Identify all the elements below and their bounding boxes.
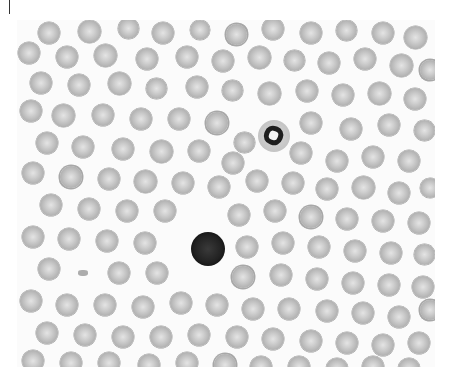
red-blood-cell xyxy=(354,48,376,70)
red-blood-cell xyxy=(22,350,44,367)
red-blood-cell xyxy=(420,60,435,80)
red-blood-cell xyxy=(270,264,292,286)
red-blood-cell xyxy=(326,150,348,172)
red-blood-cell xyxy=(132,296,154,318)
red-blood-cell xyxy=(108,262,130,284)
red-blood-cell xyxy=(222,152,244,174)
red-blood-cell xyxy=(372,334,394,356)
red-blood-cell xyxy=(316,300,338,322)
red-blood-cell xyxy=(168,108,190,130)
red-blood-cell xyxy=(150,140,173,163)
lymphocyte-cell xyxy=(191,232,225,266)
blood-smear-image xyxy=(17,20,435,367)
red-blood-cell xyxy=(262,328,284,350)
red-blood-cell xyxy=(130,108,152,130)
red-blood-cell xyxy=(362,356,384,367)
neutrophil-cell xyxy=(258,120,290,152)
red-blood-cell xyxy=(134,232,156,254)
red-blood-cell xyxy=(112,138,134,160)
red-blood-cell xyxy=(78,20,101,43)
red-blood-cell xyxy=(20,100,42,122)
red-blood-cell xyxy=(188,140,210,162)
red-blood-cell xyxy=(22,162,44,184)
red-blood-cell xyxy=(56,46,78,68)
red-blood-cell xyxy=(408,332,430,354)
red-blood-cell xyxy=(414,244,435,265)
red-blood-cell xyxy=(108,72,131,95)
red-blood-cell xyxy=(36,322,58,344)
red-blood-cell xyxy=(316,178,338,200)
red-blood-cell xyxy=(264,200,286,222)
red-blood-cell xyxy=(234,132,255,153)
red-blood-cell xyxy=(38,22,60,44)
red-blood-cell xyxy=(222,80,243,101)
red-blood-cell xyxy=(226,326,248,348)
red-blood-cell xyxy=(56,294,78,316)
red-blood-cell xyxy=(214,354,236,367)
red-blood-cell xyxy=(36,132,58,154)
red-blood-cell xyxy=(282,172,304,194)
red-blood-cell xyxy=(152,22,174,44)
red-blood-cell xyxy=(38,258,60,280)
red-blood-cell xyxy=(94,44,117,67)
red-blood-cell xyxy=(18,42,40,64)
corner-tick-mark xyxy=(9,0,10,14)
red-blood-cell xyxy=(138,354,160,367)
red-blood-cell xyxy=(372,210,394,232)
red-blood-cell xyxy=(208,176,230,198)
red-blood-cell xyxy=(300,206,322,228)
red-blood-cell xyxy=(112,326,134,348)
red-blood-cell xyxy=(336,332,358,354)
red-blood-cell xyxy=(92,104,114,126)
red-blood-cell xyxy=(420,300,435,320)
red-blood-cell xyxy=(186,76,208,98)
red-blood-cell xyxy=(272,232,294,254)
red-blood-cell xyxy=(68,74,90,96)
red-blood-cell xyxy=(78,198,100,220)
red-blood-cell xyxy=(340,118,362,140)
red-blood-cell xyxy=(288,356,310,367)
red-blood-cell xyxy=(278,298,300,320)
red-blood-cell xyxy=(60,352,82,367)
red-blood-cell xyxy=(176,352,198,367)
red-blood-cell xyxy=(146,78,167,99)
red-blood-cell xyxy=(378,114,400,136)
red-blood-cell xyxy=(172,172,194,194)
red-blood-cell xyxy=(420,178,435,198)
red-blood-cell xyxy=(154,200,176,222)
red-blood-cell xyxy=(118,20,139,39)
red-blood-cell xyxy=(248,46,271,69)
red-blood-cell xyxy=(116,200,138,222)
red-blood-cell xyxy=(300,330,322,352)
red-blood-cell xyxy=(368,82,391,105)
red-blood-cell xyxy=(52,104,75,127)
red-blood-cell xyxy=(246,170,268,192)
red-blood-cell xyxy=(398,358,420,367)
red-blood-cell xyxy=(404,88,426,110)
red-blood-cell xyxy=(380,242,402,264)
red-blood-cell xyxy=(318,52,340,74)
red-blood-cell xyxy=(170,292,192,314)
red-blood-cell xyxy=(242,298,264,320)
red-blood-cell xyxy=(300,22,322,44)
red-blood-cell xyxy=(332,84,354,106)
segmented-nucleus xyxy=(262,124,287,149)
red-blood-cell xyxy=(336,208,358,230)
red-blood-cell xyxy=(388,306,410,328)
red-blood-cell xyxy=(94,294,116,316)
red-blood-cell xyxy=(232,266,254,288)
red-blood-cell xyxy=(40,194,62,216)
red-blood-cell xyxy=(388,182,410,204)
red-blood-cell xyxy=(22,226,44,248)
red-blood-cell xyxy=(326,358,348,367)
red-blood-cell xyxy=(284,50,305,71)
red-blood-cell xyxy=(136,48,158,70)
red-blood-cell xyxy=(96,230,118,252)
red-blood-cell xyxy=(60,166,82,188)
red-blood-cell xyxy=(74,324,96,346)
red-blood-cell xyxy=(228,204,250,226)
red-blood-cell xyxy=(352,302,374,324)
red-blood-cell xyxy=(378,274,400,296)
red-blood-cell xyxy=(412,276,434,298)
red-blood-cell xyxy=(352,176,375,199)
